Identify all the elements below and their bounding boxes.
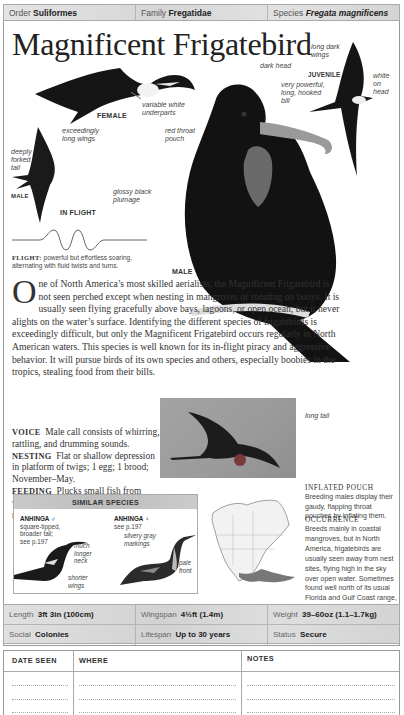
flight-pattern-icon — [12, 228, 147, 252]
stats-row: Social Colonies Lifespan Up to 30 years … — [4, 625, 399, 645]
juvenile-frigatebird-illustration — [305, 40, 375, 180]
description-text: ne of North America’s most skilled aeria… — [12, 278, 339, 377]
species-cell: Species Fregata magnificens — [268, 5, 399, 20]
order-cell: Order Suliformes — [4, 5, 136, 20]
caption-female: FEMALE — [97, 112, 127, 119]
order-value: Suliformes — [33, 8, 77, 18]
inflated-pouch-photo — [160, 398, 296, 478]
date-entry-line[interactable] — [12, 685, 68, 686]
stat-length: Length 3ft 3in (100cm) — [4, 605, 136, 624]
stats-row: Length 3ft 3in (100cm) Wingspan 4½ft (1.… — [4, 605, 399, 625]
caption-male-perched: MALE — [172, 268, 193, 275]
header-divider — [4, 671, 399, 672]
fact-voice: VOICE Male call consists of whirring, ra… — [12, 427, 162, 451]
label-long-tail: long tail — [305, 412, 329, 420]
label-white-on-head: whiteonhead — [373, 72, 389, 96]
similar-species-box: SIMILAR SPECIES ANHINGA ♂ square-tipped,… — [13, 494, 198, 594]
where-entry-line[interactable] — [79, 699, 236, 700]
anhinga-female-info: ANHINGA ♀ see p.197 — [114, 515, 150, 530]
fact-nesting: NESTING Flat or shallow depression in pl… — [12, 451, 162, 486]
column-divider — [73, 651, 74, 715]
caption-in-flight: IN FLIGHT — [60, 209, 96, 216]
label-much-longer-neck: muchlongerneck — [74, 542, 92, 565]
label-deeply-forked-tail: deeplyforkedtail — [11, 148, 32, 172]
drop-cap: O — [12, 279, 37, 305]
date-entry-line[interactable] — [12, 712, 68, 713]
notes-entry-line[interactable] — [247, 712, 395, 713]
family-cell: Family Fregatidae — [136, 5, 268, 20]
species-value: Fregata magnificens — [306, 8, 389, 18]
sighting-log: DATE SEEN WHERE NOTES — [3, 650, 400, 715]
column-where: WHERE — [79, 656, 108, 665]
where-entry-line[interactable] — [79, 712, 236, 713]
label-exceedingly-long-wings: exceedinglylong wings — [62, 127, 99, 143]
range-map — [203, 495, 301, 595]
taxonomy-header: Order Suliformes Family Fregatidae Speci… — [3, 4, 400, 21]
stat-wingspan: Wingspan 4½ft (1.4m) — [136, 605, 268, 624]
species-description: One of North America’s most skilled aeri… — [12, 278, 342, 379]
inflated-pouch-heading: INFLATED POUCH — [305, 483, 373, 492]
stat-weight: Weight 39–60oz (1.1–1.7kg) — [268, 605, 399, 624]
occurrence-title: OCCURRENCE — [305, 515, 359, 524]
field-guide-page: Order Suliformes Family Fregatidae Speci… — [0, 0, 404, 715]
family-value: Fregatidae — [168, 8, 211, 18]
date-entry-line[interactable] — [12, 699, 68, 700]
frigatebird-photo-image — [160, 398, 296, 478]
species-stats-table: Length 3ft 3in (100cm) Wingspan 4½ft (1.… — [3, 604, 400, 644]
column-divider — [241, 651, 242, 715]
flight-label: FLIGHT: — [12, 254, 42, 261]
label-silvery-gray-markings: silvery graymarkings — [124, 532, 156, 547]
page-title: Magnificent Frigatebird — [12, 26, 312, 63]
caption-male-flight: MALE — [11, 193, 29, 199]
order-label: Order — [9, 8, 31, 18]
species-label: Species — [273, 8, 303, 18]
label-glossy-black-plumage: glossy blackplumage — [113, 188, 151, 204]
notes-entry-line[interactable] — [247, 699, 395, 700]
where-entry-line[interactable] — [79, 685, 236, 686]
stat-social: Social Colonies — [4, 625, 136, 645]
label-long-dark-wings: long darkwings — [311, 43, 340, 59]
similar-species-title: SIMILAR SPECIES — [14, 495, 197, 509]
flight-description: FLIGHT: powerful but effortless soaring,… — [12, 254, 152, 270]
column-notes: NOTES — [247, 654, 274, 663]
male-in-flight-illustration — [10, 125, 65, 225]
caption-juvenile: JUVENILE — [308, 71, 340, 78]
stat-lifespan: Lifespan Up to 30 years — [136, 625, 268, 645]
label-shorter-wings: shorterwings — [68, 574, 88, 589]
notes-entry-line[interactable] — [247, 685, 395, 686]
column-date-seen: DATE SEEN — [12, 656, 57, 665]
label-red-throat-pouch: red throatpouch — [165, 127, 195, 143]
label-dark-head: dark head — [260, 62, 291, 70]
stat-status: Status Secure — [268, 625, 399, 645]
label-pale-front: palefront — [179, 559, 192, 574]
family-label: Family — [141, 8, 166, 18]
